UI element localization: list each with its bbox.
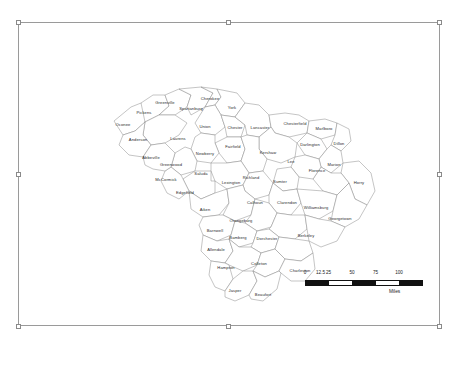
county-label: Oconee (116, 123, 131, 127)
county-label: Dillon (334, 142, 345, 146)
frame-handle-top-right[interactable] (437, 20, 442, 25)
county-label: Calhoun (247, 201, 263, 205)
county-label: Darlington (300, 143, 320, 147)
county-label: York (228, 106, 236, 110)
map-frame[interactable]: OconeePickensGreenvilleSpartanburgCherok… (18, 22, 440, 326)
frame-handle-bottom-center[interactable] (226, 324, 231, 329)
county-label: Colleton (251, 262, 267, 266)
scale-bar-graphic (305, 280, 423, 286)
scale-bar-unit-label: Miles (389, 289, 400, 294)
frame-handle-top-left[interactable] (16, 20, 21, 25)
scale-bar-tick-labels: 012.5255075100 (305, 270, 423, 279)
frame-handle-bottom-right[interactable] (437, 324, 442, 329)
county-label: Barnwell (207, 229, 224, 233)
county-label: Abbeville (142, 156, 160, 160)
county-label: Fairfield (225, 145, 240, 149)
scale-tick-label: 0 (304, 270, 307, 275)
county-label: Hampton (217, 266, 234, 270)
county-label: Edgefield (176, 191, 194, 195)
county-label: Georgetown (328, 217, 351, 221)
county-label: Laurens (170, 137, 186, 141)
scale-seg-2 (329, 281, 352, 285)
county-label: Jasper (229, 289, 242, 293)
county-label: Marion (327, 163, 340, 167)
scale-tick-label: 25 (326, 270, 331, 275)
county-label: Bamberg (229, 236, 246, 240)
scale-tick-label: 75 (373, 270, 378, 275)
county-label: Spartanburg (179, 107, 203, 111)
frame-handle-middle-right[interactable] (437, 172, 442, 177)
scale-seg-5 (399, 281, 422, 285)
county-label: Dorchester (256, 237, 277, 241)
county-label: McCormick (155, 178, 176, 182)
county-label: Clarendon (277, 201, 297, 205)
county-label: Chester (227, 126, 242, 130)
scale-tick-label: 100 (395, 270, 403, 275)
county-label: Allendale (207, 248, 225, 252)
county-label: Union (199, 125, 210, 129)
scale-bar: 012.5255075100 Miles (305, 270, 423, 300)
county-label: Cherokee (201, 97, 220, 101)
county-label: Chesterfield (283, 122, 306, 126)
county-label: Florence (309, 169, 326, 173)
county-label: Horry (354, 181, 365, 185)
frame-handle-middle-left[interactable] (16, 172, 21, 177)
scale-seg-3 (352, 281, 375, 285)
scale-tick-label: 12.5 (316, 270, 325, 275)
county-label: Beaufort (255, 293, 271, 297)
county-label: Marlboro (316, 127, 333, 131)
county-label: Saluda (194, 172, 207, 176)
frame-handle-top-center[interactable] (226, 20, 231, 25)
county-label: Newberry (196, 152, 214, 156)
county-label: Anderson (129, 138, 147, 142)
map-layout-canvas: OconeePickensGreenvilleSpartanburgCherok… (0, 0, 458, 367)
scale-tick-label: 50 (349, 270, 354, 275)
frame-handle-bottom-left[interactable] (16, 324, 21, 329)
county-label: Greenwood (160, 163, 182, 167)
county-label: Lee (287, 160, 294, 164)
county-label: Richland (243, 176, 260, 180)
county-label: Sumter (273, 180, 287, 184)
county-label: Lancaster (251, 126, 270, 130)
county-label: Berkeley (298, 234, 315, 238)
county-label: Aiken (200, 208, 211, 212)
county-label: Lexington (222, 181, 241, 185)
county-label: Orangeburg (230, 219, 253, 223)
county-label: Pickens (136, 111, 151, 115)
county-label: Williamsburg (304, 206, 329, 210)
county-label: Kershaw (260, 151, 277, 155)
scale-seg-4 (376, 281, 399, 285)
county-label: Greenville (155, 101, 174, 105)
scale-seg-1 (306, 281, 329, 285)
